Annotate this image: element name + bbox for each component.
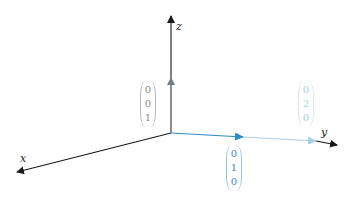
vector-ez-component-x: 0	[145, 83, 151, 97]
x-axis-label: x	[20, 152, 27, 165]
vector-ey-component-z: 0	[231, 175, 237, 189]
vector-ey-label: 0 1 0	[226, 145, 242, 191]
vector-2ey-label: 0 2 0	[298, 81, 314, 127]
vector-ez-component-y: 0	[145, 97, 151, 111]
y-axis-label: y	[320, 126, 328, 139]
vector-ey-component-y: 1	[231, 161, 237, 175]
x-axis	[17, 133, 171, 172]
vector-2ey	[243, 137, 316, 141]
vector-ey-component-x: 0	[231, 147, 237, 161]
z-axis-label: z	[175, 20, 182, 33]
vector-ez-label: 0 0 1	[140, 81, 156, 127]
y-axis	[316, 141, 337, 145]
vector-2ey-component-x: 0	[303, 83, 309, 97]
vector-2ey-component-y: 2	[303, 97, 309, 111]
vector-2ey-component-z: 0	[303, 111, 309, 125]
vector-ez-component-z: 1	[145, 111, 151, 125]
vector-ey	[171, 133, 243, 137]
